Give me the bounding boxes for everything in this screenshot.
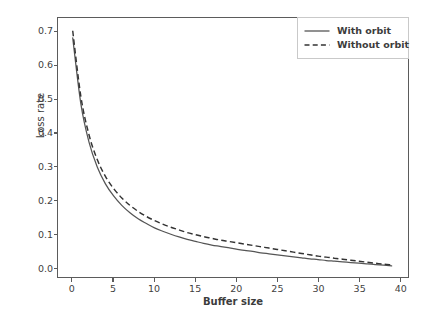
series-without-orbit-line	[73, 31, 392, 265]
x-tick-mark	[154, 278, 155, 282]
y-tick-mark	[54, 166, 58, 167]
x-tick-mark	[236, 278, 237, 282]
y-tick-mark	[54, 268, 58, 269]
x-tick-mark	[318, 278, 319, 282]
x-tick-label: 20	[230, 284, 242, 294]
x-axis-label: Buffer size	[57, 296, 409, 307]
legend-item-without-orbit: Without orbit	[304, 38, 401, 52]
x-tick-mark	[112, 278, 113, 282]
legend-item-with-orbit: With orbit	[304, 24, 401, 38]
x-tick-label: 15	[189, 284, 201, 294]
x-tick-label: 10	[148, 284, 160, 294]
x-tick-label: 25	[271, 284, 283, 294]
x-tick-label: 5	[110, 284, 116, 294]
legend-swatch-solid	[304, 26, 330, 36]
y-tick-mark	[54, 31, 58, 32]
chart-figure: 0.00.10.20.30.40.50.60.7 051015202530354…	[0, 0, 429, 330]
series-with-orbit-line	[73, 38, 392, 266]
x-tick-mark	[359, 278, 360, 282]
legend-label-with-orbit: With orbit	[337, 26, 391, 36]
y-tick-mark	[54, 200, 58, 201]
x-tick-mark	[71, 278, 72, 282]
x-tick-mark	[195, 278, 196, 282]
y-tick-mark	[54, 132, 58, 133]
x-tick-mark	[277, 278, 278, 282]
x-tick-label: 0	[69, 284, 75, 294]
x-tick-label: 30	[312, 284, 324, 294]
legend-label-without-orbit: Without orbit	[337, 40, 409, 50]
x-tick-label: 35	[354, 284, 366, 294]
x-tick-label: 40	[395, 284, 407, 294]
legend-swatch-dashed	[304, 40, 330, 50]
y-tick-mark	[54, 99, 58, 100]
y-tick-mark	[54, 234, 58, 235]
chart-legend: With orbit Without orbit	[297, 17, 409, 59]
y-tick-mark	[54, 65, 58, 66]
y-axis-label: Loss rate	[35, 81, 46, 151]
x-tick-mark	[400, 278, 401, 282]
